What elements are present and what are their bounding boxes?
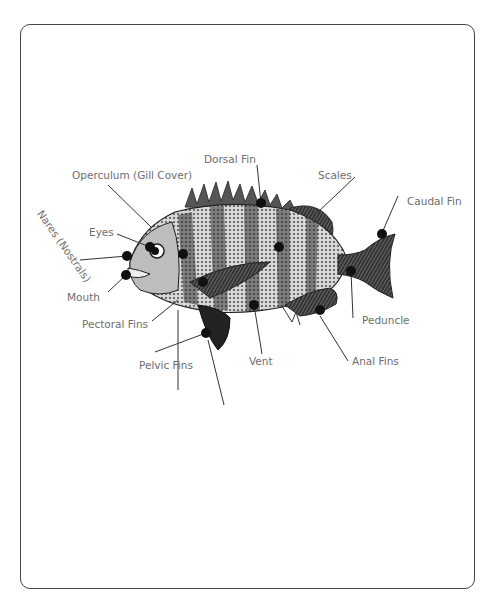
label-mouth: Mouth (67, 291, 100, 303)
label-vent: Vent (249, 355, 273, 367)
label-eyes: Eyes (89, 226, 114, 238)
fish-illustration (0, 0, 489, 607)
label-caudal-fin: Caudal Fin (407, 195, 462, 207)
label-peduncle: Peduncle (362, 314, 410, 326)
caudal-fin (338, 234, 395, 298)
label-anal-fins: Anal Fins (352, 355, 399, 367)
label-operculum: Operculum (Gill Cover) (72, 169, 192, 181)
label-pelvic-fins: Pelvic Fins (139, 359, 193, 371)
label-pectoral-fins: Pectoral Fins (82, 318, 148, 330)
label-scales: Scales (318, 169, 352, 181)
label-dorsal-fin: Dorsal Fin (204, 153, 256, 165)
